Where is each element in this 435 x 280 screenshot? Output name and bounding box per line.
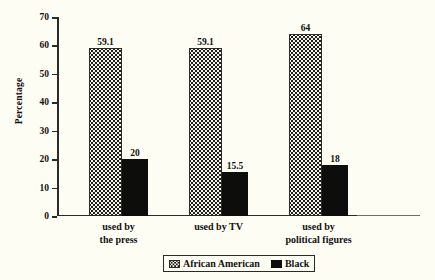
legend-swatch-black: [271, 260, 282, 268]
y-tick-mark: [52, 131, 57, 133]
bar-chart: Percentage 706050403020100 59.120used by…: [0, 0, 435, 280]
bar-value-label: 15.5: [227, 161, 244, 171]
y-tick-label: 70: [40, 12, 50, 22]
y-tick-label: 20: [40, 154, 50, 164]
bar-value-label: 59.1: [97, 37, 114, 47]
legend-item-african-american: African American: [169, 258, 260, 269]
y-tick-label: 0: [44, 211, 49, 221]
x-axis-category-label: used bythe press: [100, 221, 138, 246]
bar-african-american: 59.1: [189, 48, 222, 216]
y-tick-label: 60: [40, 40, 50, 50]
y-tick-label: 40: [40, 97, 50, 107]
y-tick-label: 10: [40, 183, 50, 193]
y-tick-label: 50: [40, 69, 50, 79]
bar-value-label: 20: [130, 148, 140, 158]
plot-area: 706050403020100 59.120used bythe press59…: [57, 17, 420, 216]
y-tick-mark: [52, 188, 57, 190]
chart-legend: African American Black: [163, 255, 315, 272]
legend-label-african-american: African American: [183, 258, 260, 269]
y-tick-mark: [52, 17, 57, 19]
y-axis-label: Percentage: [14, 56, 24, 146]
bar-african-american: 64: [289, 34, 322, 216]
x-axis-category-label: used bypolitical figures: [285, 221, 351, 246]
legend-swatch-african-american: [169, 260, 180, 268]
legend-label-black: Black: [285, 258, 309, 269]
bar-group: 6418used bypolitical figures: [289, 17, 348, 216]
y-tick-mark: [52, 74, 57, 76]
bar-group: 59.115.5used by TV: [189, 17, 248, 216]
y-tick-mark: [52, 45, 57, 47]
bar-value-label: 18: [330, 154, 340, 164]
bar-african-american: 59.1: [89, 48, 122, 216]
bar-group: 59.120used bythe press: [89, 17, 148, 216]
bar-black: 18: [322, 165, 348, 216]
y-tick-mark: [52, 159, 57, 161]
legend-item-black: Black: [271, 258, 309, 269]
y-tick-mark: [52, 216, 57, 218]
bar-black: 20: [122, 159, 148, 216]
x-axis-category-label: used by TV: [194, 221, 243, 234]
y-tick-mark: [52, 102, 57, 104]
bar-value-label: 64: [301, 23, 311, 33]
y-axis-line: [57, 17, 59, 216]
bar-black: 15.5: [222, 172, 248, 216]
y-tick-label: 30: [40, 126, 50, 136]
bar-value-label: 59.1: [197, 37, 214, 47]
